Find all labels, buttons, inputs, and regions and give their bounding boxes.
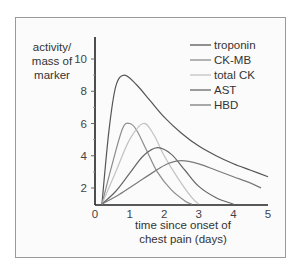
y-tick-label: 4: [81, 150, 88, 162]
x-tick-label: 0: [92, 208, 98, 220]
series-line-hbd: [102, 161, 261, 205]
legend-label-total-ck: total CK: [214, 69, 255, 81]
y-tick-label: 6: [81, 118, 87, 130]
legend-label-hbd: HBD: [214, 99, 238, 111]
y-tick-label: 8: [81, 85, 87, 97]
legend-label-ck-mb: CK-MB: [214, 54, 251, 66]
x-tick-label: 2: [161, 208, 167, 220]
x-tick-label: 5: [265, 208, 271, 220]
plot-area: 246810012345troponinCK-MBtotal CKASTHBD: [0, 0, 298, 276]
x-tick-label: 3: [196, 208, 202, 220]
y-tick-label: 10: [74, 53, 87, 65]
legend-label-troponin: troponin: [214, 39, 256, 51]
y-tick-label: 2: [81, 182, 87, 194]
series-line-troponin: [102, 75, 268, 204]
legend-label-ast: AST: [214, 84, 236, 96]
x-tick-label: 4: [230, 208, 237, 220]
x-tick-label: 1: [126, 208, 132, 220]
